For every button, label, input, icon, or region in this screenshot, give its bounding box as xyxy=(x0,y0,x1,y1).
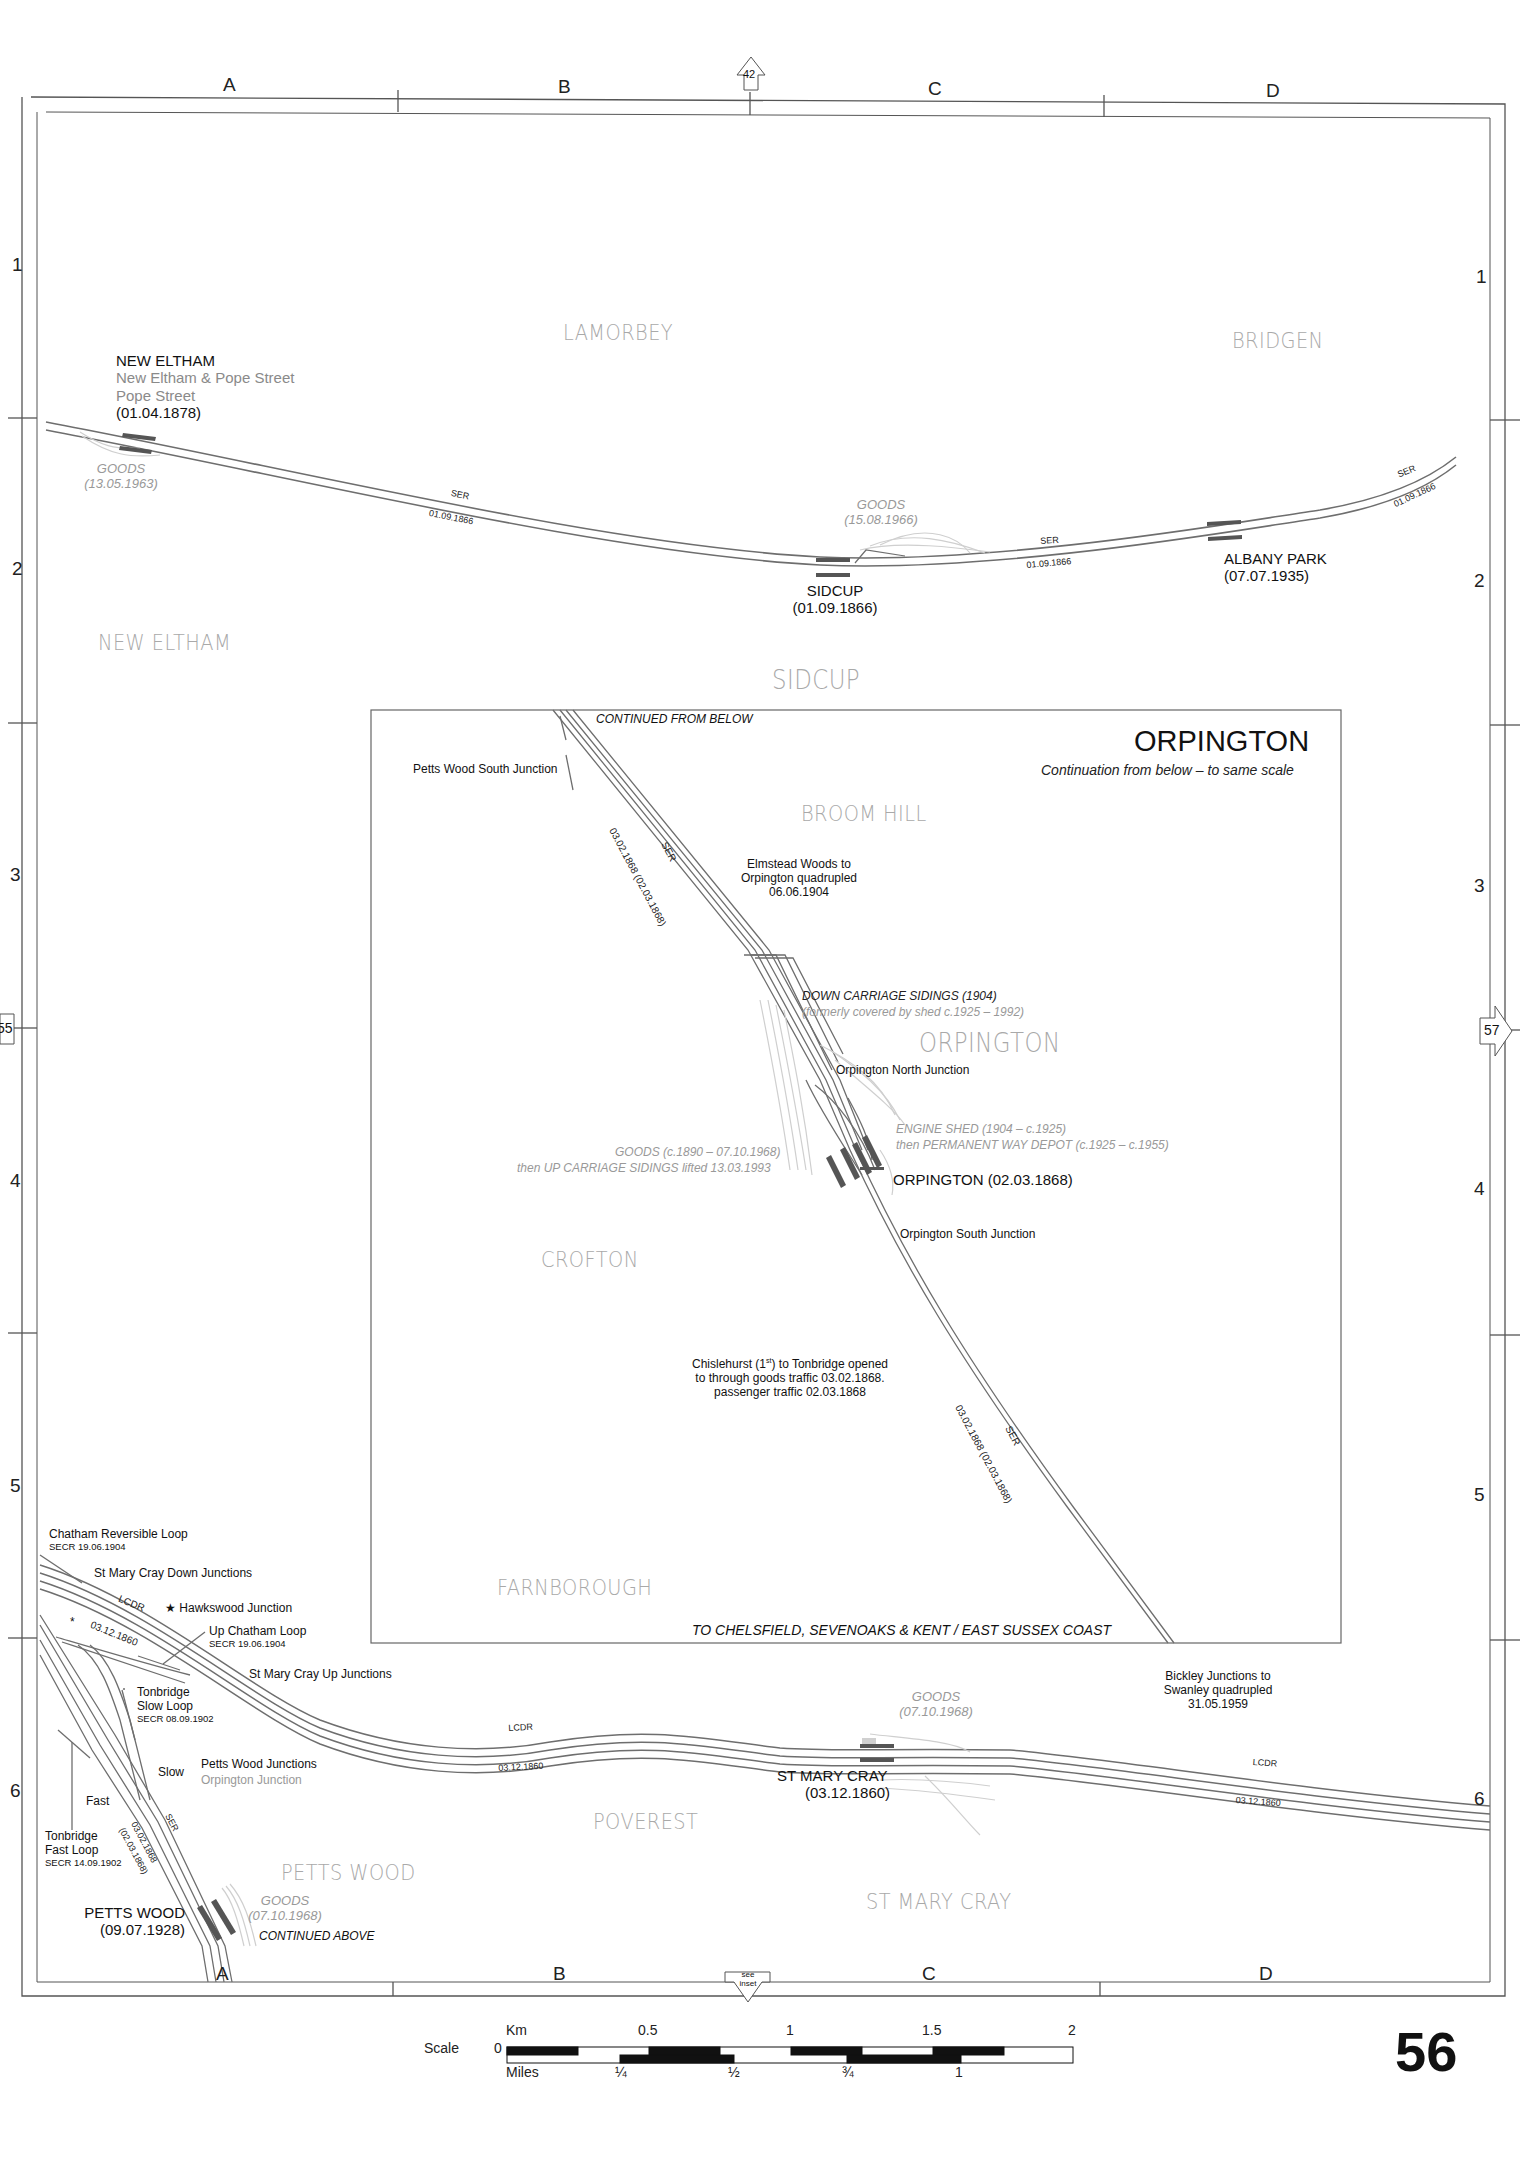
goods-date: (13.05.1963) xyxy=(74,477,168,492)
line-label-ser: SER xyxy=(1040,535,1059,546)
district-farnborough: FARNBOROUGH xyxy=(497,1575,652,1600)
page-ref-top[interactable]: 42 xyxy=(743,68,755,81)
note-opened: Chislehurst (1st) to Tonbridge opened to… xyxy=(660,1357,920,1399)
district-new-eltham: NEW ELTHAM xyxy=(98,630,231,655)
scale-km-tick: 2 xyxy=(1068,2022,1076,2038)
goods-petts-wood: GOODS (07.10.1968) xyxy=(245,1894,325,1924)
station-name: SIDCUP xyxy=(790,582,880,599)
chatham-reversible-loop: Chatham Reversible Loop SECR 19.06.1904 xyxy=(49,1528,188,1553)
disused-sidings-top xyxy=(80,432,990,553)
district-crofton: CROFTON xyxy=(541,1247,639,1272)
ser-line-top xyxy=(46,422,1456,566)
st-mary-cray-down-jns: St Mary Cray Down Junctions xyxy=(94,1567,252,1581)
scale-mile-tick: 1 xyxy=(955,2064,963,2080)
grid-col-c-top: C xyxy=(928,78,942,100)
page-number: 56 xyxy=(1395,2020,1457,2084)
district-broom-hill: BROOM HILL xyxy=(801,801,927,826)
page-ref-left[interactable]: 55 xyxy=(0,1020,13,1036)
station-albany-park: ALBANY PARK (07.07.1935) xyxy=(1224,550,1327,585)
grid-row-3-left: 3 xyxy=(10,864,21,886)
station-opened: (01.09.1866) xyxy=(790,599,880,616)
note-line: Orpington quadrupled xyxy=(714,872,884,886)
goods-label: GOODS xyxy=(896,1690,976,1705)
scale-zero: 0 xyxy=(494,2040,502,2056)
grid-row-2-right: 2 xyxy=(1474,570,1485,592)
note-line: Chislehurst (1st) to Tonbridge opened xyxy=(660,1357,920,1372)
label: Slow Loop xyxy=(137,1700,214,1714)
grid-row-5-right: 5 xyxy=(1474,1484,1485,1506)
grid-row-6-left: 6 xyxy=(10,1780,21,1802)
st-mary-cray-up-jns: St Mary Cray Up Junctions xyxy=(249,1668,392,1682)
down-carriage-sidings-note: (formerly covered by shed c.1925 – 1992) xyxy=(802,1006,1024,1020)
inset-title: ORPINGTON xyxy=(1134,725,1309,758)
label: Tonbridge xyxy=(137,1686,214,1700)
page-ref-bottom-line1: see xyxy=(736,1970,760,1979)
station-opened: (03.12.1860) xyxy=(777,1784,890,1801)
note-line: to through goods traffic 03.02.1868. xyxy=(660,1372,920,1386)
junction-petts-wood-south: Petts Wood South Junction xyxy=(413,763,558,777)
station-st-mary-cray: ST MARY CRAY (03.12.1860) xyxy=(777,1767,890,1802)
note-bickley: Bickley Junctions to Swanley quadrupled … xyxy=(1143,1670,1293,1711)
goods-st-mary-cray: GOODS (07.10.1968) xyxy=(896,1690,976,1720)
scale-km-tick: 1 xyxy=(786,2022,794,2038)
label-date: SECR 14.09.1902 xyxy=(45,1858,122,1869)
inset-subtitle: Continuation from below – to same scale xyxy=(1041,762,1294,778)
label: Chatham Reversible Loop xyxy=(49,1528,188,1542)
station-petts-wood: PETTS WOOD (09.07.1928) xyxy=(79,1904,185,1939)
page-ref-bottom[interactable]: see inset xyxy=(736,1970,760,1988)
goods-date: (07.10.1968) xyxy=(245,1909,325,1924)
note-line: 31.05.1959 xyxy=(1143,1698,1293,1712)
district-sidcup: SIDCUP xyxy=(772,666,860,696)
scale-label: Scale xyxy=(424,2040,459,2056)
star-marker: * xyxy=(70,1616,75,1630)
station-name: NEW ELTHAM xyxy=(116,352,294,369)
engine-shed-pwd: then PERMANENT WAY DEPOT (c.1925 – c.195… xyxy=(896,1139,1169,1153)
engine-shed: ENGINE SHED (1904 – c.1925) xyxy=(896,1123,1066,1137)
grid-col-d-bottom: D xyxy=(1259,1963,1273,1985)
grid-row-4-right: 4 xyxy=(1474,1178,1485,1200)
line-label-lcdr: LCDR xyxy=(1252,1757,1277,1769)
note-line: Swanley quadrupled xyxy=(1143,1684,1293,1698)
note-line: passenger traffic 02.03.1868 xyxy=(660,1386,920,1400)
grid-col-b-bottom: B xyxy=(553,1963,566,1985)
label: Fast Loop xyxy=(45,1844,122,1858)
goods-label: GOODS xyxy=(834,498,928,513)
grid-row-6-right: 6 xyxy=(1474,1788,1485,1810)
district-bridgen: BRIDGEN xyxy=(1232,328,1324,353)
station-name: ST MARY CRAY xyxy=(777,1767,890,1784)
label-date: SECR 08.09.1902 xyxy=(137,1714,214,1725)
station-name: PETTS WOOD xyxy=(79,1904,185,1921)
slow-label: Slow xyxy=(158,1766,184,1780)
label: Tonbridge xyxy=(45,1830,122,1844)
up-chatham-loop: Up Chatham Loop SECR 19.06.1904 xyxy=(209,1625,306,1650)
district-poverest: POVEREST xyxy=(593,1809,698,1834)
goods-new-eltham: GOODS (13.05.1963) xyxy=(74,462,168,492)
scale-km-tick: 1.5 xyxy=(922,2022,941,2038)
scale-mile-tick: ¼ xyxy=(615,2064,627,2080)
district-petts-wood: PETTS WOOD xyxy=(281,1860,416,1885)
page-ref-right[interactable]: 57 xyxy=(1484,1022,1500,1038)
station-former-name: Pope Street xyxy=(116,387,294,404)
scale-km-label: Km xyxy=(506,2022,527,2038)
station-former-name: New Eltham & Pope Street xyxy=(116,369,294,386)
goods-orpington-sidings: then UP CARRIAGE SIDINGS lifted 13.03.19… xyxy=(517,1162,771,1176)
grid-row-4-left: 4 xyxy=(10,1170,21,1192)
station-opened: (01.04.1878) xyxy=(116,404,294,421)
grid-row-1-left: 1 xyxy=(12,254,23,276)
tonbridge-slow-loop: Tonbridge Slow Loop SECR 08.09.1902 xyxy=(137,1686,214,1725)
down-carriage-sidings: DOWN CARRIAGE SIDINGS (1904) xyxy=(802,990,997,1004)
goods-orpington: GOODS (c.1890 – 07.10.1968) xyxy=(615,1146,780,1160)
note-line: Bickley Junctions to xyxy=(1143,1670,1293,1684)
siding-sidcup xyxy=(855,550,905,563)
petts-wood-platforms xyxy=(197,1899,236,1941)
fast-label: Fast xyxy=(86,1795,109,1809)
station-new-eltham: NEW ELTHAM New Eltham & Pope Street Pope… xyxy=(116,352,294,421)
goods-date: (07.10.1968) xyxy=(896,1705,976,1720)
map-linework xyxy=(0,0,1526,2157)
inset-ser-tracks xyxy=(553,710,1174,1643)
grid-row-5-left: 5 xyxy=(10,1475,21,1497)
note-line: Elmstead Woods to xyxy=(714,858,884,872)
continued-above: CONTINUED ABOVE xyxy=(259,1930,375,1944)
station-opened: (09.07.1928) xyxy=(79,1921,185,1938)
grid-col-b-top: B xyxy=(558,76,571,98)
